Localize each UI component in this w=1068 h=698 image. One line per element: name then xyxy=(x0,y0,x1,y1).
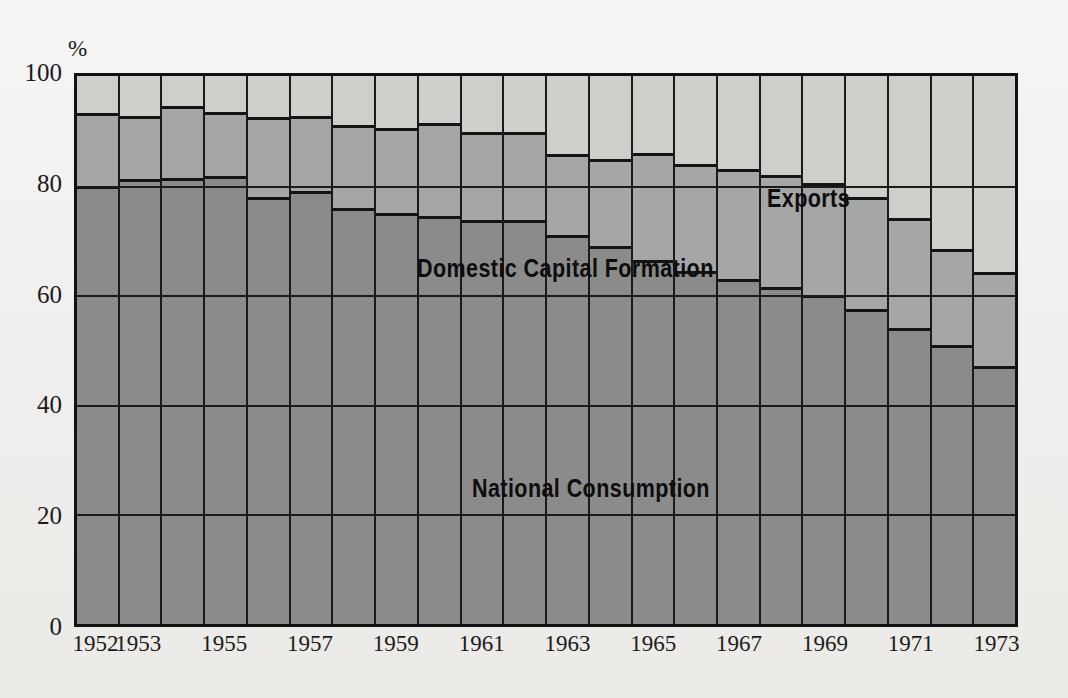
segment-exports-1973 xyxy=(974,76,1015,272)
bar-1966 xyxy=(675,76,718,624)
segment-exports-1966 xyxy=(675,76,716,164)
segment-consumption-1970 xyxy=(846,309,887,624)
y-tick-label-40: 40 xyxy=(37,391,62,419)
segment-exports-1959 xyxy=(376,76,417,128)
segment-consumption-1955 xyxy=(205,176,246,624)
segment-consumption-1965 xyxy=(633,260,674,624)
bar-1971 xyxy=(889,76,932,624)
x-tick-label-1961: 1961 xyxy=(459,631,505,657)
x-tick-label-1963: 1963 xyxy=(544,631,590,657)
x-tick-label-1967: 1967 xyxy=(716,631,762,657)
segment-exports-1954 xyxy=(162,76,203,106)
series-label-consumption: National Consumption xyxy=(472,474,710,503)
segment-consumption-1966 xyxy=(675,271,716,624)
y-tick-label-20: 20 xyxy=(37,502,62,530)
segment-capital-1972 xyxy=(932,249,973,345)
bar-1953 xyxy=(120,76,163,624)
segment-exports-1957 xyxy=(291,76,332,116)
segment-exports-1952 xyxy=(77,76,118,113)
segment-consumption-1969 xyxy=(803,295,844,624)
x-tick-label-1973: 1973 xyxy=(974,631,1020,657)
segment-exports-1964 xyxy=(590,76,631,159)
segment-capital-1954 xyxy=(162,106,203,179)
bar-1970 xyxy=(846,76,889,624)
bar-1957 xyxy=(291,76,334,624)
segment-capital-1956 xyxy=(248,117,289,197)
segment-exports-1971 xyxy=(889,76,930,218)
bar-1962 xyxy=(504,76,547,624)
segment-exports-1968 xyxy=(761,76,802,175)
y-tick-label-100: 100 xyxy=(25,59,63,87)
x-tick-label-1953: 1953 xyxy=(115,631,161,657)
y-tick-label-0: 0 xyxy=(50,613,63,641)
segment-consumption-1963 xyxy=(547,235,588,624)
segment-capital-1964 xyxy=(590,159,631,246)
bar-1967 xyxy=(718,76,761,624)
bar-1956 xyxy=(248,76,291,624)
segment-consumption-1968 xyxy=(761,287,802,624)
bar-1958 xyxy=(333,76,376,624)
x-axis: 1952195319551957195919611963196519671969… xyxy=(74,631,1018,671)
segment-exports-1970 xyxy=(846,76,887,197)
x-tick-label-1959: 1959 xyxy=(373,631,419,657)
plot-area: Exports Domestic Capital Formation Natio… xyxy=(74,73,1018,627)
y-tick-label-60: 60 xyxy=(37,281,62,309)
segment-exports-1965 xyxy=(633,76,674,153)
segment-capital-1967 xyxy=(718,169,759,279)
segment-exports-1958 xyxy=(333,76,374,125)
segment-exports-1953 xyxy=(120,76,161,116)
segment-consumption-1973 xyxy=(974,366,1015,624)
segment-capital-1960 xyxy=(419,123,460,216)
x-tick-label-1971: 1971 xyxy=(888,631,934,657)
segment-exports-1972 xyxy=(932,76,973,249)
segment-capital-1953 xyxy=(120,116,161,179)
bar-1952 xyxy=(77,76,120,624)
bar-1968 xyxy=(761,76,804,624)
segment-capital-1973 xyxy=(974,272,1015,367)
y-tick-label-80: 80 xyxy=(37,170,62,198)
segment-capital-1957 xyxy=(291,116,332,191)
series-label-exports: Exports xyxy=(767,184,850,213)
segment-consumption-1971 xyxy=(889,328,930,624)
series-label-capital: Domestic Capital Formation xyxy=(417,254,714,283)
bar-1960 xyxy=(419,76,462,624)
segment-consumption-1967 xyxy=(718,279,759,624)
segment-exports-1955 xyxy=(205,76,246,112)
bar-1973 xyxy=(974,76,1015,624)
segment-consumption-1953 xyxy=(120,179,161,624)
segment-exports-1967 xyxy=(718,76,759,169)
segment-exports-1960 xyxy=(419,76,460,123)
segment-capital-1962 xyxy=(504,132,545,220)
segment-consumption-1959 xyxy=(376,213,417,624)
segment-capital-1965 xyxy=(633,153,674,260)
segment-exports-1963 xyxy=(547,76,588,154)
segment-capital-1958 xyxy=(333,125,374,207)
segment-consumption-1954 xyxy=(162,178,203,624)
segment-exports-1969 xyxy=(803,76,844,183)
chart-page: % 020406080100 Exports Domestic Capital … xyxy=(0,0,1068,698)
bar-1972 xyxy=(932,76,975,624)
bar-1963 xyxy=(547,76,590,624)
segment-consumption-1952 xyxy=(77,186,118,624)
x-tick-label-1955: 1955 xyxy=(201,631,247,657)
segment-capital-1952 xyxy=(77,113,118,186)
bar-1955 xyxy=(205,76,248,624)
segment-exports-1956 xyxy=(248,76,289,117)
segment-consumption-1956 xyxy=(248,197,289,624)
bar-1961 xyxy=(462,76,505,624)
segment-capital-1959 xyxy=(376,128,417,213)
segment-capital-1971 xyxy=(889,218,930,328)
bar-1964 xyxy=(590,76,633,624)
x-tick-label-1969: 1969 xyxy=(802,631,848,657)
x-tick-label-1957: 1957 xyxy=(287,631,333,657)
segment-capital-1963 xyxy=(547,154,588,235)
segment-consumption-1972 xyxy=(932,345,973,624)
segment-exports-1961 xyxy=(462,76,503,132)
x-tick-label-1965: 1965 xyxy=(630,631,676,657)
segment-capital-1970 xyxy=(846,197,887,309)
y-axis: % 020406080100 xyxy=(0,0,74,698)
x-tick-label-1952: 1952 xyxy=(72,631,118,657)
bar-1969 xyxy=(803,76,846,624)
y-axis-unit: % xyxy=(68,36,87,62)
bar-group xyxy=(77,76,1015,624)
